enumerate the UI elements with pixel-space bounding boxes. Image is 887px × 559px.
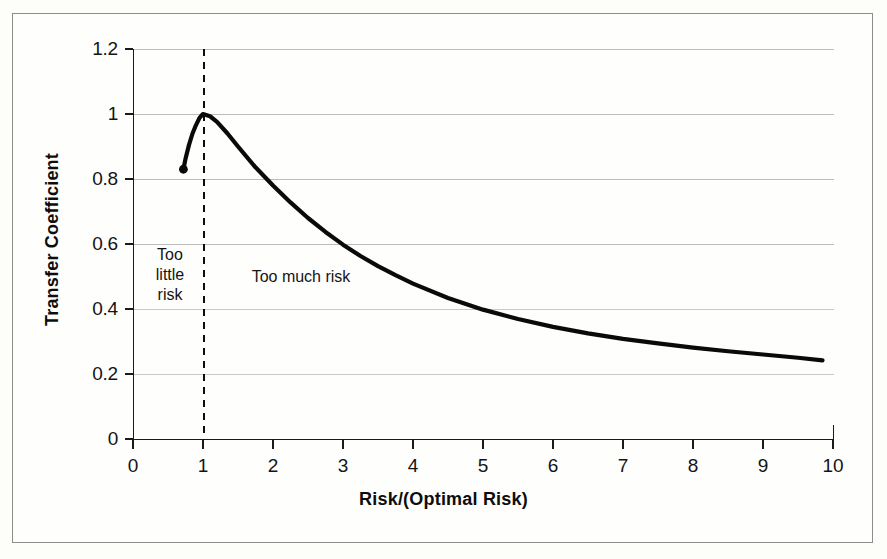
y-tick-label-0_4: 0.4 (58, 298, 118, 320)
x-tick-label-3: 3 (323, 455, 363, 477)
x-axis-title: Risk/(Optimal Risk) (0, 489, 887, 510)
x-tick-label-0: 0 (113, 455, 153, 477)
x-tick-label-2: 2 (253, 455, 293, 477)
x-tick-label-5: 5 (463, 455, 503, 477)
y-tick-label-0_2: 0.2 (58, 363, 118, 385)
x-tick-label-7: 7 (603, 455, 643, 477)
annotation-too-little-risk-line-1: Too (142, 245, 198, 265)
x-axis-ticks (133, 440, 833, 449)
x-tick-label-6: 6 (533, 455, 573, 477)
y-tick-label-1_2: 1.2 (58, 38, 118, 60)
transfer-coefficient-curve (183, 114, 822, 360)
x-tick-label-4: 4 (393, 455, 433, 477)
y-tick-label-0_8: 0.8 (58, 168, 118, 190)
y-axis-ticks (125, 49, 133, 439)
annotation-too-little-risk: Too little risk (142, 245, 198, 305)
x-tick-label-10: 10 (813, 455, 853, 477)
annotation-too-much-risk: Too much risk (216, 267, 386, 287)
x-tick-label-1: 1 (183, 455, 223, 477)
annotation-too-little-risk-line-2: little (142, 265, 198, 285)
y-axis-title: Transfer Coefficient (42, 75, 63, 405)
figure-container: 1.2 1 0.8 0.6 0.4 0.2 0 0 1 2 3 4 5 6 7 … (0, 0, 887, 559)
y-tick-label-0: 0 (58, 428, 118, 450)
x-tick-label-9: 9 (743, 455, 783, 477)
curve-start-marker (179, 165, 188, 174)
x-tick-label-8: 8 (673, 455, 713, 477)
horizontal-gridlines (133, 49, 834, 374)
annotation-too-little-risk-line-3: risk (142, 285, 198, 305)
y-tick-label-1: 1 (58, 103, 118, 125)
y-tick-label-0_6: 0.6 (58, 233, 118, 255)
